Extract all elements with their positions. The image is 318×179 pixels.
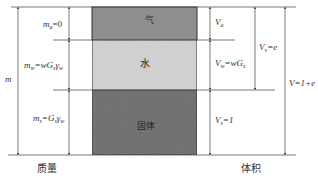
water-phase-label: 水 [140, 59, 150, 69]
volume-voids-label: Vv=e [259, 43, 277, 53]
solids-phase-label: 固体 [137, 122, 155, 131]
mass-water-label: mw=wGsγw [24, 61, 63, 71]
mass-title: 质量 [37, 164, 57, 174]
mass-solid-label: ms=Gsγw [33, 114, 64, 124]
volume-water-label: Vw=wGs [215, 59, 245, 69]
volume-solid-label: Vs=1 [215, 116, 233, 126]
mass-total-label: m [5, 75, 12, 84]
air-phase-label: 气 [145, 16, 154, 25]
mass-air-label: ma=0 [43, 20, 62, 30]
volume-air-label: Va [215, 18, 224, 28]
volume-total-label: V=1+e [289, 79, 315, 88]
volume-title: 体积 [241, 164, 261, 174]
